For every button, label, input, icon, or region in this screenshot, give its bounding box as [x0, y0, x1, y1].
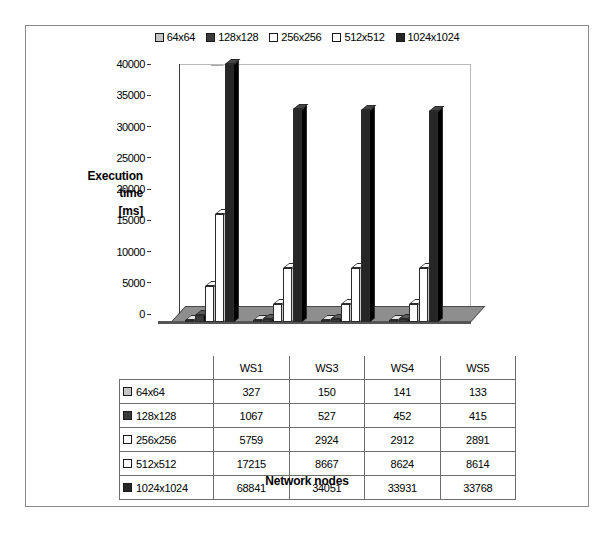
- bar-side: [234, 60, 239, 322]
- table-row-header-inner: 64x64: [123, 386, 209, 398]
- bar: [253, 320, 262, 322]
- y-axis-tick-label: 25000: [116, 152, 145, 164]
- bar: [361, 110, 370, 322]
- table-row-swatch: [123, 435, 132, 444]
- bar-face: [321, 320, 330, 322]
- bar-face: [409, 304, 418, 322]
- table-row-header: 128x128: [120, 404, 214, 428]
- bar-cluster: [185, 64, 234, 322]
- legend-swatch: [206, 33, 215, 42]
- bar-face: [195, 315, 204, 322]
- x-axis-category-label: WS1: [214, 356, 290, 380]
- table-row-label: 256x256: [136, 434, 176, 446]
- bar: [225, 64, 234, 322]
- y-axis-tick: 35000: [116, 89, 151, 101]
- bar: [283, 268, 292, 322]
- bar-face: [293, 109, 302, 322]
- bar-face: [399, 319, 408, 322]
- legend-swatch: [396, 33, 405, 42]
- legend-item: 1024x1024: [396, 31, 460, 43]
- y-axis-tick-label: 20000: [116, 183, 145, 195]
- y-axis-tick: 30000: [116, 121, 151, 133]
- bar: [293, 109, 302, 322]
- y-axis-tick: 25000: [116, 152, 151, 164]
- y-axis-tick-mark: [147, 251, 151, 252]
- legend-label: 128x128: [218, 31, 258, 43]
- y-axis-tick-mark: [147, 189, 151, 190]
- y-axis-tick: 5000: [122, 277, 151, 289]
- table-row-swatch: [123, 411, 132, 420]
- bar-face: [185, 320, 194, 322]
- legend-label: 256x256: [281, 31, 321, 43]
- x-axis-title: Network nodes: [26, 474, 588, 488]
- table-row: 512x51217215866786248614: [120, 452, 516, 476]
- y-axis: [179, 64, 180, 314]
- bar: [429, 111, 438, 322]
- y-axis-tick-label: 40000: [116, 58, 145, 70]
- table-cell: 2891: [440, 428, 516, 452]
- bar-face: [429, 111, 438, 322]
- table-row-header: 512x512: [120, 452, 214, 476]
- bar-face: [351, 268, 360, 322]
- bar: [215, 214, 224, 322]
- table-row-label: 128x128: [136, 410, 176, 422]
- table-cell: 17215: [214, 452, 290, 476]
- table-row: 64x64327150141133: [120, 380, 516, 404]
- table-row: 256x2565759292429122891: [120, 428, 516, 452]
- y-axis-tick-mark: [147, 220, 151, 221]
- legend-label: 512x512: [344, 31, 384, 43]
- table-corner-cell: [120, 356, 214, 380]
- table-row-swatch: [123, 387, 132, 396]
- table-cell: 141: [365, 380, 441, 404]
- y-axis-tick: 40000: [116, 58, 151, 70]
- bar-face: [341, 304, 350, 322]
- legend-swatch: [155, 33, 164, 42]
- table-cell: 5759: [214, 428, 290, 452]
- bar-face: [389, 320, 398, 322]
- bar: [389, 320, 398, 322]
- bar-face: [419, 268, 428, 322]
- table-row-swatch: [123, 459, 132, 468]
- bar: [205, 286, 214, 322]
- table-cell: 527: [289, 404, 365, 428]
- x-axis-category-label: WS5: [440, 356, 516, 380]
- y-axis-tick: 0: [139, 308, 151, 320]
- bar-face: [263, 319, 272, 322]
- table-row-header-inner: 128x128: [123, 410, 209, 422]
- bar: [263, 319, 272, 322]
- bar-side: [302, 105, 307, 322]
- bar: [409, 304, 418, 322]
- table-row-header-inner: 512x512: [123, 458, 209, 470]
- y-axis-tick-label: 15000: [116, 214, 145, 226]
- table-row-header: 256x256: [120, 428, 214, 452]
- y-axis-tick: 10000: [116, 246, 151, 258]
- y-axis-tick-label: 35000: [116, 89, 145, 101]
- legend-label: 64x64: [167, 31, 195, 43]
- legend-swatch: [332, 33, 341, 42]
- bar: [273, 304, 282, 322]
- bar-face: [361, 110, 370, 322]
- bar-face: [273, 304, 282, 322]
- table-cell: 1067: [214, 404, 290, 428]
- bar-cluster: [253, 109, 302, 322]
- table-cell: 327: [214, 380, 290, 404]
- bar-face: [215, 214, 224, 322]
- bar-face: [205, 286, 214, 322]
- table-cell: 8614: [440, 452, 516, 476]
- y-axis-tick-mark: [147, 95, 151, 96]
- bar: [195, 315, 204, 322]
- bar-face: [225, 64, 234, 322]
- legend-label: 1024x1024: [408, 31, 460, 43]
- legend-item: 128x128: [206, 31, 258, 43]
- plot-area: 0500010000150002000025000300003500040000: [151, 56, 471, 346]
- table-cell: 415: [440, 404, 516, 428]
- table-row-label: 64x64: [136, 386, 164, 398]
- y-axis-tick: 15000: [116, 214, 151, 226]
- x-axis-category-label: WS4: [365, 356, 441, 380]
- chart-legend: 64x64128x128256x256512x5121024x1024: [26, 31, 588, 43]
- x-axis-category-label: WS3: [289, 356, 365, 380]
- table-row-header: 64x64: [120, 380, 214, 404]
- y-axis-tick-mark: [147, 157, 151, 158]
- y-axis-tick-label: 5000: [122, 277, 145, 289]
- bar: [331, 319, 340, 322]
